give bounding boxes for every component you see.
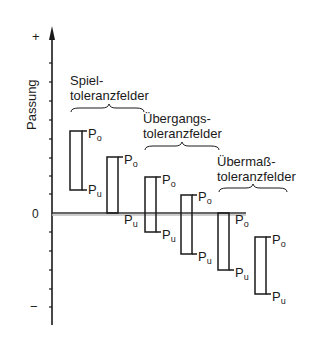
pu-label: Pu <box>235 265 249 282</box>
y-axis <box>49 26 55 325</box>
tolerance-field-3 <box>145 177 161 232</box>
y-axis-label: Passung <box>24 79 39 130</box>
svg-text:Übergangs-: Übergangs- <box>143 111 211 126</box>
arrow-up-icon <box>49 26 55 40</box>
brace <box>219 184 287 192</box>
minus-sign: − <box>30 299 38 314</box>
brace <box>71 104 144 112</box>
svg-text:toleranzfelder: toleranzfelder <box>143 126 222 141</box>
pu-label: Pu <box>162 227 176 244</box>
tolerance-field-1 <box>70 131 87 190</box>
group-label-uebermass: Übermaß- toleranzfelder <box>217 154 296 192</box>
po-label: Po <box>88 126 102 143</box>
po-label: Po <box>162 172 176 189</box>
pu-label: Pu <box>272 289 286 306</box>
brace <box>145 142 219 150</box>
group-label-uebergang: Übergangs- toleranzfelder <box>143 111 222 150</box>
pu-label: Pu <box>198 249 212 266</box>
zero-label: 0 <box>32 207 39 221</box>
tolerance-field-6 <box>255 237 271 294</box>
po-label: Po <box>124 152 138 169</box>
po-label: Po <box>235 212 249 229</box>
po-label: Po <box>272 232 286 249</box>
tolerance-field-diagram: + 0 − Passung Spiel- toleranzfelder Über… <box>0 0 331 348</box>
pu-label: Pu <box>88 182 102 199</box>
svg-text:Übermaß-: Übermaß- <box>217 154 276 169</box>
tolerance-field-5 <box>218 213 234 270</box>
po-label: Po <box>198 189 212 206</box>
svg-text:Spiel-: Spiel- <box>70 73 103 88</box>
group-label-spiel: Spiel- toleranzfelder <box>70 73 149 112</box>
svg-text:toleranzfelder: toleranzfelder <box>217 169 296 184</box>
plus-sign: + <box>32 29 40 44</box>
tolerance-field-2 <box>107 157 123 213</box>
svg-text:toleranzfelder: toleranzfelder <box>70 88 149 103</box>
tolerance-field-4 <box>181 195 197 254</box>
